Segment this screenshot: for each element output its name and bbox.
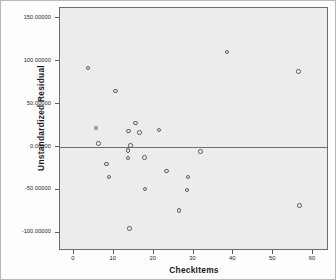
x-axis-tick xyxy=(153,250,154,254)
y-axis-tick xyxy=(55,232,59,233)
data-point xyxy=(126,156,130,160)
y-axis-tick xyxy=(55,60,59,61)
data-point xyxy=(157,128,161,132)
y-axis-tick-label: -50.00000 xyxy=(0,185,51,191)
x-axis-tick-label: 20 xyxy=(138,255,168,261)
data-point xyxy=(177,208,181,212)
data-point xyxy=(186,175,190,179)
x-axis-tick xyxy=(312,250,313,254)
data-point xyxy=(96,141,100,145)
y-axis-tick xyxy=(55,146,59,147)
x-axis-tick-label: 30 xyxy=(178,255,208,261)
data-point xyxy=(86,66,90,70)
y-axis-tick-label: -100.00000 xyxy=(0,228,51,234)
x-axis-tick xyxy=(193,250,194,254)
data-point xyxy=(185,188,189,192)
x-axis-tick xyxy=(113,250,114,254)
y-axis-tick xyxy=(55,189,59,190)
data-point xyxy=(133,121,137,125)
x-axis-tick xyxy=(272,250,273,254)
plot-area[interactable] xyxy=(59,7,328,250)
data-point xyxy=(297,203,301,207)
data-point xyxy=(142,155,146,159)
chart-figure: Unstandardized Residual CheckItems 150.0… xyxy=(0,0,336,280)
data-point xyxy=(143,187,147,191)
x-axis-tick-label: 50 xyxy=(257,255,287,261)
x-axis-title: CheckItems xyxy=(59,265,329,275)
x-axis-tick-label: 40 xyxy=(217,255,247,261)
x-axis-tick-label: 60 xyxy=(297,255,327,261)
data-point xyxy=(198,149,202,153)
data-point xyxy=(107,175,111,179)
zero-reference-line xyxy=(60,147,327,148)
data-point xyxy=(225,50,229,54)
y-axis-tick xyxy=(55,17,59,18)
y-axis-tick-label: 150.00000 xyxy=(0,14,51,20)
y-axis-tick-label: 0.00000 xyxy=(0,143,51,149)
data-point xyxy=(113,89,117,93)
x-axis-tick-label: 0 xyxy=(58,255,88,261)
data-point xyxy=(104,162,108,166)
x-axis-tick xyxy=(232,250,233,254)
data-point xyxy=(126,129,130,133)
data-point xyxy=(296,69,300,73)
data-point xyxy=(128,143,132,147)
data-point xyxy=(137,130,141,134)
data-point xyxy=(164,169,168,173)
x-axis-tick-label: 10 xyxy=(98,255,128,261)
y-axis-tick-label: 100.00000 xyxy=(0,57,51,63)
x-axis-tick xyxy=(73,250,74,254)
data-point xyxy=(94,126,98,130)
data-point xyxy=(126,148,130,152)
y-axis-tick-label: 50.00000 xyxy=(0,100,51,106)
data-point xyxy=(127,226,131,230)
y-axis-tick xyxy=(55,103,59,104)
